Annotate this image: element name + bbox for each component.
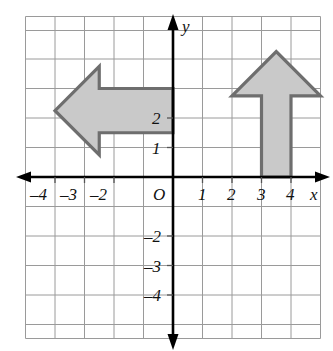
x-tick-label-2: 2 bbox=[227, 186, 236, 203]
origin-label: O bbox=[153, 186, 165, 203]
y-tick-label--2: –2 bbox=[144, 228, 161, 245]
x-tick-label--3: –3 bbox=[60, 186, 77, 203]
coordinate-plane-figure: –4 –3 –2 1 2 3 4 2 1 –2 –3 –4 O x y bbox=[0, 0, 333, 351]
x-axis-left-arrowhead bbox=[16, 172, 31, 183]
x-tick-label-4: 4 bbox=[286, 186, 295, 203]
x-axis-label: x bbox=[310, 186, 318, 203]
y-tick-label-1: 1 bbox=[152, 140, 161, 157]
y-axis-label: y bbox=[182, 18, 190, 35]
x-tick-label-3: 3 bbox=[257, 186, 266, 203]
x-tick-label-1: 1 bbox=[198, 186, 207, 203]
coordinate-plane-svg bbox=[0, 0, 333, 351]
y-tick-label--4: –4 bbox=[144, 287, 161, 304]
y-tick-label--3: –3 bbox=[144, 258, 161, 275]
x-axis-right-arrowhead bbox=[315, 172, 330, 183]
y-tick-label-2: 2 bbox=[152, 110, 161, 127]
x-tick-label--4: –4 bbox=[30, 186, 47, 203]
y-axis bbox=[168, 14, 179, 350]
y-axis-bottom-arrowhead bbox=[168, 334, 179, 350]
up-arrow-shape bbox=[232, 52, 321, 177]
x-tick-label--2: –2 bbox=[90, 186, 107, 203]
